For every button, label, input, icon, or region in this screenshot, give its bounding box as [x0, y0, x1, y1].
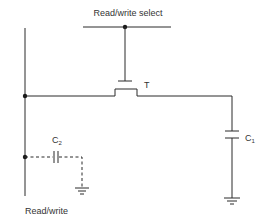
- c2-lead-right: [59, 157, 82, 188]
- read-write-label: Read/write: [25, 206, 68, 216]
- ground-icon: [224, 198, 240, 204]
- transistor-label: T: [144, 80, 150, 90]
- circuit-diagram: Read/write select T C1 C2 Read/write: [0, 0, 267, 221]
- channel-and-bit-path: [25, 89, 232, 131]
- ground-icon: [75, 188, 89, 194]
- bitline-junction-dot: [23, 94, 27, 98]
- select-line-label: Read/write select: [93, 8, 163, 18]
- capacitor-C2: [25, 151, 82, 188]
- c2-label: C2: [52, 135, 63, 146]
- capacitor-C1: [225, 131, 239, 198]
- c1-label: C1: [245, 133, 256, 144]
- transistor-T: [25, 27, 232, 131]
